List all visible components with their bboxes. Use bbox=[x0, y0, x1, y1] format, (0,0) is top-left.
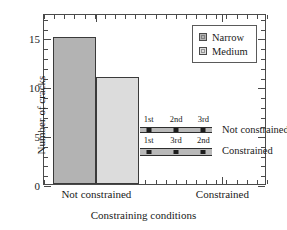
x-axis-minor-tick bbox=[216, 15, 217, 19]
y-axis-tick bbox=[261, 108, 265, 109]
x-axis-minor-tick bbox=[64, 15, 65, 19]
figure-canvas: 051015Not constrainedConstrainedNarrowMe… bbox=[0, 0, 287, 230]
y-axis-tick bbox=[44, 69, 48, 70]
y-axis-tick bbox=[261, 79, 265, 80]
x-axis-minor-tick bbox=[156, 15, 157, 19]
x-axis-minor-tick bbox=[176, 180, 177, 184]
y-axis-tick bbox=[44, 30, 48, 31]
x-axis-tick bbox=[222, 177, 223, 184]
y-axis-tick bbox=[44, 186, 51, 187]
x-axis-minor-tick bbox=[105, 15, 106, 19]
x-axis-minor-tick bbox=[115, 15, 116, 19]
y-axis-tick bbox=[258, 88, 265, 89]
y-axis-tick bbox=[261, 166, 265, 167]
y-axis-tick bbox=[44, 39, 51, 40]
rod-marker-icon bbox=[174, 150, 179, 154]
x-axis-minor-tick bbox=[257, 180, 258, 184]
x-axis-minor-tick bbox=[186, 15, 187, 19]
legend-swatch-icon bbox=[199, 47, 207, 55]
x-axis-minor-tick bbox=[156, 180, 157, 184]
rod-icon bbox=[140, 127, 212, 133]
rod-marker-label: 1st bbox=[144, 136, 154, 145]
y-axis-tick bbox=[261, 20, 265, 21]
y-axis-tick bbox=[44, 157, 48, 158]
x-axis-tick bbox=[222, 15, 223, 22]
y-axis-tick bbox=[261, 98, 265, 99]
x-axis-minor-tick bbox=[166, 180, 167, 184]
x-axis-minor-tick bbox=[196, 180, 197, 184]
legend-item-label: Narrow bbox=[212, 32, 244, 43]
x-axis-minor-tick bbox=[267, 180, 268, 184]
y-axis-tick bbox=[44, 20, 48, 21]
x-axis-title: Constraining conditions bbox=[0, 209, 287, 221]
rod-marker-icon bbox=[174, 128, 179, 132]
rod-marker-icon bbox=[146, 150, 151, 154]
x-axis-minor-tick bbox=[85, 15, 86, 19]
x-axis-minor-tick bbox=[145, 15, 146, 19]
rod-marker-label: 1st bbox=[144, 115, 154, 124]
y-axis-tick bbox=[258, 39, 265, 40]
x-axis-minor-tick bbox=[206, 180, 207, 184]
x-axis-minor-tick bbox=[145, 180, 146, 184]
y-axis-tick bbox=[261, 176, 265, 177]
y-axis-tick bbox=[261, 30, 265, 31]
legend: NarrowMedium bbox=[192, 25, 257, 63]
legend-item-narrow[interactable]: Narrow bbox=[199, 30, 248, 44]
plot-area: 051015Not constrainedConstrainedNarrowMe… bbox=[43, 14, 266, 185]
x-axis-minor-tick bbox=[125, 15, 126, 19]
y-axis-title: Number of cracks bbox=[35, 76, 47, 155]
x-axis-minor-tick bbox=[267, 15, 268, 19]
legend-swatch-icon bbox=[199, 33, 207, 41]
y-axis-tick bbox=[44, 49, 48, 50]
bar-medium-not-constrained bbox=[96, 77, 139, 184]
x-axis-minor-tick bbox=[247, 15, 248, 19]
y-axis-tick bbox=[261, 118, 265, 119]
y-axis-tick bbox=[261, 49, 265, 50]
y-axis-tick bbox=[258, 137, 265, 138]
legend-item-medium[interactable]: Medium bbox=[199, 44, 248, 58]
x-axis-minor-tick bbox=[44, 180, 45, 184]
rod-marker-label: 2nd bbox=[197, 136, 210, 145]
x-axis-minor-tick bbox=[74, 15, 75, 19]
y-axis-tick bbox=[44, 176, 48, 177]
x-axis-tick-label: Constrained bbox=[196, 188, 249, 200]
rod-marker-label: 3rd bbox=[198, 115, 209, 124]
y-axis-tick-label: 0 bbox=[35, 181, 41, 192]
x-axis-minor-tick bbox=[226, 180, 227, 184]
legend-item-label: Medium bbox=[212, 46, 248, 57]
x-axis-minor-tick bbox=[237, 15, 238, 19]
y-axis-tick bbox=[261, 157, 265, 158]
y-axis-tick bbox=[44, 59, 48, 60]
x-axis-minor-tick bbox=[257, 15, 258, 19]
x-axis-minor-tick bbox=[226, 15, 227, 19]
rod-marker-icon bbox=[146, 128, 151, 132]
rod-marker-icon bbox=[201, 150, 206, 154]
x-axis-minor-tick bbox=[166, 15, 167, 19]
x-axis-minor-tick bbox=[237, 180, 238, 184]
x-axis-minor-tick bbox=[216, 180, 217, 184]
x-axis-tick-label: Not constrained bbox=[61, 188, 131, 200]
x-axis-minor-tick bbox=[186, 180, 187, 184]
rod-marker-icon bbox=[201, 128, 206, 132]
x-axis-minor-tick bbox=[196, 15, 197, 19]
y-axis-tick bbox=[44, 166, 48, 167]
x-axis-minor-tick bbox=[54, 15, 55, 19]
x-axis-tick bbox=[96, 15, 97, 22]
y-axis-tick bbox=[261, 59, 265, 60]
x-axis-minor-tick bbox=[135, 15, 136, 19]
rod-marker-label: 2nd bbox=[170, 115, 183, 124]
x-axis-minor-tick bbox=[176, 15, 177, 19]
y-axis-tick bbox=[258, 186, 265, 187]
x-axis-minor-tick bbox=[44, 15, 45, 19]
y-axis-tick-label: 15 bbox=[29, 34, 40, 45]
bar-narrow-not-constrained bbox=[53, 37, 96, 184]
annotation-caption: Not constrained bbox=[222, 124, 287, 135]
rod-marker-label: 3rd bbox=[170, 136, 181, 145]
x-axis-minor-tick bbox=[206, 15, 207, 19]
rod-icon bbox=[140, 148, 212, 156]
x-axis-minor-tick bbox=[247, 180, 248, 184]
annotation-caption: Constrained bbox=[222, 145, 273, 156]
y-axis-tick bbox=[261, 69, 265, 70]
